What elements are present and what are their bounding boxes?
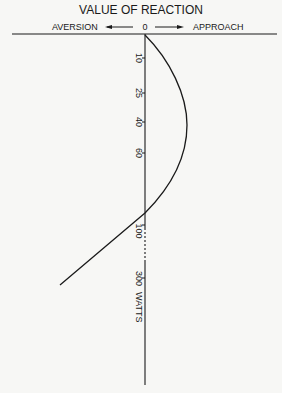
tick-label-25: 25 bbox=[134, 88, 144, 98]
tick-label-300: 300 bbox=[134, 271, 144, 286]
reaction-diagram: VALUE OF REACTION AVERSION 0 APPROACH 10… bbox=[0, 0, 282, 393]
right-arrow-icon bbox=[155, 25, 184, 29]
diagram-title: VALUE OF REACTION bbox=[79, 3, 203, 17]
watts-unit-label: WATTS bbox=[134, 292, 144, 323]
tick-label-100: 100 bbox=[134, 223, 144, 238]
aversion-label: AVERSION bbox=[52, 22, 98, 32]
tick-label-60: 60 bbox=[134, 148, 144, 158]
approach-label: APPROACH bbox=[193, 22, 244, 32]
tick-label-40: 40 bbox=[134, 117, 144, 127]
zero-label: 0 bbox=[142, 22, 147, 32]
tick-label-10: 10 bbox=[134, 53, 144, 63]
reaction-curve bbox=[60, 35, 187, 285]
tick-labels: 10 25 40 60 100 300 WATTS bbox=[134, 53, 144, 323]
left-arrow-icon bbox=[105, 25, 133, 29]
